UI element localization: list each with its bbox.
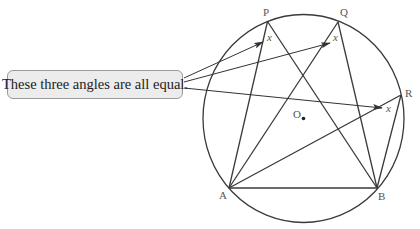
circle-theorem-diagram: O P Q R A B x x x <box>0 0 420 229</box>
callout-box: These three angles are all equal. <box>7 70 183 99</box>
point-label-p: P <box>263 6 269 18</box>
segment-qb <box>338 22 377 188</box>
callout-arrows <box>184 42 382 108</box>
angle-label-q: x <box>332 31 338 43</box>
angle-label-r: x <box>385 102 391 114</box>
center-dot <box>302 117 306 121</box>
point-label-a: A <box>219 189 227 201</box>
center-label-o: O <box>293 108 301 120</box>
point-label-q: Q <box>340 6 348 18</box>
segment-ap <box>229 22 268 189</box>
segment-ar <box>229 95 401 188</box>
callout-text: These three angles are all equal. <box>2 76 188 93</box>
point-label-r: R <box>405 87 413 99</box>
point-label-b: B <box>378 190 385 202</box>
arrow-to-angle-q <box>184 43 330 82</box>
arrow-to-angle-p <box>184 42 263 78</box>
angle-label-p: x <box>266 31 272 43</box>
